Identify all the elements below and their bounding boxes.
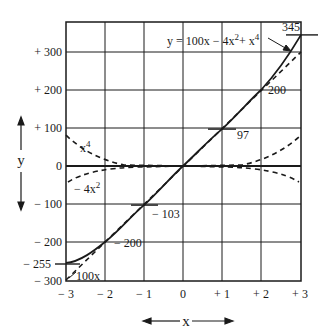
y-axis-label: y [17, 152, 25, 168]
annotation-97: 97 [237, 128, 249, 142]
main-curve-label: y = 100x − 4x2+ x4 [167, 32, 260, 48]
y-tick: + 300 [34, 45, 62, 59]
y-tick-labels: + 300 + 200 + 100 0 − 100 − 200 − 300 [34, 45, 62, 288]
annotation-neg255: − 255 [23, 257, 51, 271]
x-tick: − 1 [136, 287, 152, 301]
x-axis-label: x [182, 313, 190, 329]
annotation-neg103: − 103 [152, 207, 180, 221]
x-tick: + 3 [292, 287, 308, 301]
x-tick: − 2 [97, 287, 113, 301]
x-tick: 0 [180, 287, 186, 301]
y-tick: + 100 [34, 121, 62, 135]
annotation-neg200: − 200 [114, 236, 142, 250]
neg4x2-label: − 4x2 [74, 180, 100, 196]
x-tick: − 3 [58, 287, 74, 301]
y-tick: − 100 [34, 197, 62, 211]
annotation-345: 345 [282, 20, 300, 34]
function-graph: + 300 + 200 + 100 0 − 100 − 200 − 300 − … [0, 0, 331, 334]
x-tick: + 2 [253, 287, 269, 301]
x-tick: + 1 [214, 287, 230, 301]
grid-lines [66, 22, 301, 281]
y-tick: − 300 [34, 274, 62, 288]
main-label-arrow-icon [268, 38, 291, 51]
y-tick: 0 [56, 159, 62, 173]
annotation-200: 200 [268, 83, 286, 97]
x-tick-labels: − 3 − 2 − 1 0 + 1 + 2 + 3 [58, 287, 308, 301]
linear-label: 100x [76, 269, 100, 283]
y-tick: − 200 [34, 235, 62, 249]
y-tick: + 200 [34, 83, 62, 97]
